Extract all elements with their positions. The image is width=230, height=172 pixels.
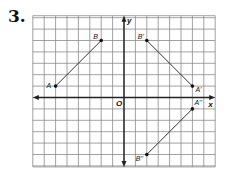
point-label-B: B — [93, 33, 98, 40]
point-A-double-prime — [191, 107, 195, 111]
y-axis-up-arrow-icon — [122, 16, 127, 22]
origin-label: O — [116, 99, 123, 108]
point-A — [54, 84, 58, 88]
point-label-A-double-prime: A'' — [193, 99, 202, 106]
y-axis-label: y — [126, 16, 132, 25]
coordinate-grid: xyOABA'B'A''B'' — [0, 0, 230, 172]
point-label-A-prime: A' — [194, 86, 202, 93]
point-B-prime — [145, 39, 149, 43]
point-B-double-prime — [145, 153, 149, 157]
point-label-B-double-prime: B'' — [136, 155, 144, 162]
x-axis-label: x — [207, 100, 213, 109]
point-A-prime — [191, 84, 195, 88]
x-axis-left-arrow-icon — [33, 95, 39, 100]
point-label-B-prime: B' — [138, 33, 145, 40]
point-B — [99, 39, 103, 43]
point-label-A: A — [46, 82, 52, 89]
